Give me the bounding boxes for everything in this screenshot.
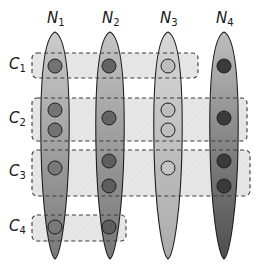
row-label-c3: C3	[9, 164, 26, 181]
node-n4-c3	[217, 154, 231, 168]
nodes	[48, 59, 231, 234]
node-n2-c1	[102, 59, 116, 73]
row-label-c1: C1	[9, 57, 26, 74]
node-n3-c1	[161, 59, 175, 73]
node-n4-c2	[217, 111, 231, 125]
node-n2-c2	[102, 111, 116, 125]
node-n2-c3	[102, 154, 116, 168]
row-label-c4: C4	[9, 219, 26, 236]
node-n2-c4	[102, 220, 116, 234]
node-n2-c3	[102, 179, 116, 193]
column-label-n2: N2	[102, 11, 120, 28]
column-label-n3: N3	[160, 11, 178, 28]
node-n4-c1	[217, 59, 231, 73]
node-n3-c3	[161, 161, 175, 175]
row-label-c2: C2	[9, 111, 26, 128]
node-n1-c3	[48, 161, 62, 175]
node-n1-c2	[48, 123, 62, 137]
node-n3-c2	[161, 103, 175, 117]
node-n1-c4	[48, 220, 62, 234]
node-n3-c2	[161, 123, 175, 137]
set-diagram	[0, 0, 256, 272]
node-n1-c1	[48, 59, 62, 73]
node-n1-c2	[48, 103, 62, 117]
column-label-n1: N1	[47, 11, 65, 28]
node-n4-c3	[217, 179, 231, 193]
column-label-n4: N4	[216, 11, 234, 28]
